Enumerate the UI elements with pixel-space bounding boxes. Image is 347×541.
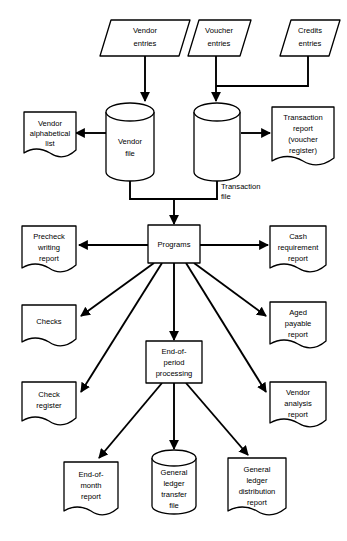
transaction-file-label-line-0: Transaction: [221, 182, 260, 191]
precheck-writing-report-label-line-2: report: [39, 254, 60, 263]
cash-requirement-report-label-line-0: Cash: [289, 232, 307, 241]
credits-entries-label-line-0: Credits: [298, 26, 322, 35]
aged-payable-report-label-line-1: payable: [285, 319, 312, 328]
cash-requirement-report-label-line-1: requirement: [278, 243, 319, 252]
node-precheck-writing-report[interactable]: Precheck writing report: [22, 226, 76, 272]
credits-entries-label-line-1: entries: [299, 39, 322, 48]
vendor-file-top: [106, 103, 154, 121]
transaction-file-top: [194, 103, 240, 121]
vendor-alphabetical-list-label-line-0: Vendor: [38, 119, 63, 128]
vendor-alphabetical-list-label-line-2: list: [45, 139, 55, 148]
vendor-analysis-report-label-line-2: report: [288, 410, 309, 419]
end-of-month-report-label-line-2: report: [81, 492, 102, 501]
node-voucher-entries[interactable]: Voucher entries: [188, 20, 251, 56]
vendor-entries-label-line-0: Vendor: [133, 26, 158, 35]
node-aged-payable-report[interactable]: Aged payable report: [270, 302, 326, 348]
edge-programs-to-aged-payable-report: [194, 263, 266, 316]
general-ledger-distribution-report-label-line-1: ledger: [246, 476, 268, 485]
check-register-label-line-1: register: [36, 401, 62, 410]
precheck-writing-report-label-line-0: Precheck: [33, 232, 65, 241]
general-ledger-transfer-file-label-line-1: ledger: [163, 479, 185, 488]
flowchart-diagram: Vendor entries Voucher entries Credits e…: [0, 0, 347, 541]
node-credits-entries[interactable]: Credits entries: [280, 20, 340, 56]
transaction-file-body: [194, 112, 240, 181]
precheck-writing-report-label-line-1: writing: [37, 243, 60, 252]
end-of-month-report-label-line-0: End-of-: [79, 470, 104, 479]
general-ledger-distribution-report-label-line-3: report: [247, 498, 268, 507]
programs-label: Programs: [158, 240, 191, 249]
general-ledger-distribution-report-label-line-0: General: [243, 465, 270, 474]
vendor-file-label-line-1: file: [125, 149, 135, 158]
edge-end-of-period-to-end-of-month-report: [99, 383, 162, 458]
edge-programs-to-checks: [81, 263, 154, 316]
node-transaction-file-store[interactable]: [194, 103, 240, 181]
edge-end-of-period-to-general-ledger-distribution-report: [186, 383, 248, 455]
node-vendor-alphabetical-list[interactable]: Vendor alphabetical list: [24, 112, 76, 157]
end-of-period-processing-label-line-0: End-of-: [162, 347, 187, 356]
cash-requirement-report-label-line-2: report: [288, 254, 309, 263]
transaction-report-label-line-0: Transaction: [283, 113, 322, 122]
voucher-entries-label-line-0: Voucher: [205, 26, 233, 35]
node-transaction-report[interactable]: Transaction report (voucher register): [272, 107, 334, 165]
transaction-file-label-line-1: file: [221, 192, 231, 201]
node-general-ledger-transfer-file[interactable]: General ledger transfer file: [152, 450, 196, 514]
vendor-alphabetical-list-label-line-1: alphabetical: [30, 129, 71, 138]
vendor-entries-label-line-1: entries: [134, 39, 157, 48]
edge-vendor-file-to-programs: [130, 181, 174, 199]
vendor-analysis-report-label-line-0: Vendor: [286, 388, 311, 397]
node-vendor-analysis-report[interactable]: Vendor analysis report: [270, 382, 326, 427]
vendor-file-body: [106, 112, 154, 181]
flowchart-canvas: Vendor entries Voucher entries Credits e…: [0, 0, 347, 541]
node-check-register[interactable]: Check register: [22, 382, 76, 425]
vendor-analysis-report-label-line-1: analysis: [284, 399, 312, 408]
node-general-ledger-distribution-report[interactable]: General ledger distribution report: [228, 458, 286, 515]
node-end-of-period-processing[interactable]: End-of- period processing: [146, 341, 202, 383]
transaction-report-label-line-1: report: [293, 124, 314, 133]
general-ledger-transfer-file-top: [152, 450, 196, 466]
end-of-period-processing-label-line-1: period: [163, 358, 184, 367]
transaction-report-label-line-2: (voucher: [288, 135, 318, 144]
node-programs[interactable]: Programs: [148, 225, 200, 263]
node-vendor-entries[interactable]: Vendor entries: [100, 20, 190, 56]
end-of-period-processing-label-line-2: processing: [156, 369, 193, 378]
end-of-month-report-label-line-1: month: [80, 481, 101, 490]
general-ledger-transfer-file-label-line-2: transfer: [161, 490, 187, 499]
aged-payable-report-label-line-2: report: [288, 330, 309, 339]
edge-transaction-file-to-programs: [174, 181, 217, 199]
checks-label: Checks: [36, 317, 62, 326]
general-ledger-transfer-file-label-line-0: General: [160, 468, 187, 477]
transaction-report-label-line-3: register): [289, 146, 317, 155]
node-end-of-month-report[interactable]: End-of- month report: [64, 462, 118, 515]
check-register-label-line-0: Check: [38, 390, 60, 399]
voucher-entries-label-line-1: entries: [208, 39, 231, 48]
general-ledger-transfer-file-label-line-3: file: [169, 501, 179, 510]
vendor-file-label-line-0: Vendor: [118, 137, 143, 146]
edge-credits-entries-to-transaction-file: [216, 56, 308, 86]
general-ledger-distribution-report-label-line-2: distribution: [239, 487, 276, 496]
node-checks[interactable]: Checks: [22, 305, 76, 346]
edge-label-transaction-file: Transaction file: [221, 182, 260, 201]
aged-payable-report-label-line-0: Aged: [289, 308, 307, 317]
node-vendor-file[interactable]: Vendor file: [106, 103, 154, 181]
node-cash-requirement-report[interactable]: Cash requirement report: [270, 226, 326, 272]
